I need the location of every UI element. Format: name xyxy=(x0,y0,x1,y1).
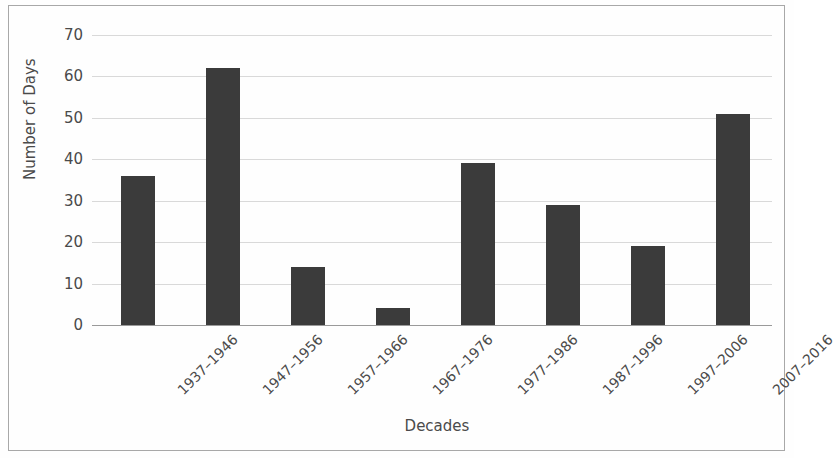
gridline xyxy=(92,201,772,202)
bar xyxy=(631,246,665,325)
y-axis-tick-label: 0 xyxy=(73,318,83,333)
gridline xyxy=(92,76,772,77)
bar xyxy=(291,267,325,325)
y-axis-tick-label: 10 xyxy=(64,276,83,291)
x-axis-line xyxy=(92,325,772,326)
bar xyxy=(376,308,410,325)
y-axis-tick-label: 50 xyxy=(64,110,83,125)
y-axis-tick-label: 40 xyxy=(64,152,83,167)
y-axis-title: Number of Days xyxy=(23,58,38,180)
gridline xyxy=(92,284,772,285)
gridline xyxy=(92,242,772,243)
bar xyxy=(461,163,495,325)
bar xyxy=(716,114,750,325)
y-axis-tick-label: 70 xyxy=(64,28,83,43)
gridline xyxy=(92,35,772,36)
bar xyxy=(546,205,580,325)
x-axis-title-text: Decades xyxy=(405,417,470,435)
bar xyxy=(206,68,240,325)
y-axis-tick-label: 30 xyxy=(64,193,83,208)
y-axis-tick-label: 60 xyxy=(64,69,83,84)
plot-area: 010203040506070 1937–19461947–19561957–1… xyxy=(92,35,772,325)
gridline xyxy=(92,159,772,160)
gridline xyxy=(92,118,772,119)
x-axis-title: Decades xyxy=(0,419,794,434)
y-axis-tick-label: 20 xyxy=(64,235,83,250)
bar xyxy=(121,176,155,325)
